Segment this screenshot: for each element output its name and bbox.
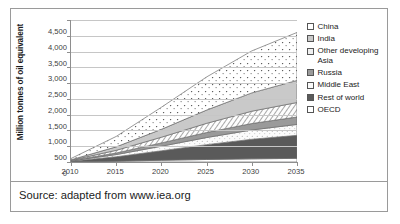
gridline: [71, 115, 297, 116]
y-tick-mark: [67, 99, 71, 100]
legend-item-label: Russia: [318, 68, 342, 78]
legend-swatch-icon: [307, 69, 314, 76]
stacked-area-series: [71, 20, 297, 162]
x-tick-label: 2015: [107, 167, 124, 176]
x-axis-tick-labels: 201020152020202520302035: [70, 167, 296, 179]
gridline: [71, 67, 297, 68]
legend-item[interactable]: OECD: [307, 105, 387, 115]
plot-inner: [71, 20, 297, 162]
gridline: [71, 99, 297, 100]
legend-item[interactable]: China: [307, 22, 387, 32]
y-tick-mark: [67, 83, 71, 84]
gridline: [71, 130, 297, 131]
gridline: [71, 83, 297, 84]
y-tick-label: 500: [39, 153, 67, 162]
legend-item-label: OECD: [318, 105, 341, 115]
legend-item-label: Rest of world: [318, 93, 365, 103]
legend-swatch-icon: [307, 23, 314, 30]
source-caption: Source: adapted from www.iea.org: [19, 189, 191, 201]
y-tick-label: 2,000: [39, 105, 67, 114]
y-tick-label: 4,500: [39, 27, 67, 36]
x-tick-mark: [297, 162, 298, 166]
x-tick-label: 2035: [288, 167, 305, 176]
y-tick-mark: [67, 115, 71, 116]
legend-item-label: China: [318, 22, 339, 32]
gridline: [71, 20, 297, 21]
legend-item-label: India: [318, 34, 335, 44]
legend-item-label: Other developing Asia: [318, 46, 388, 65]
legend-swatch-icon: [307, 35, 314, 42]
y-tick-label: 3,000: [39, 74, 67, 83]
y-tick-label: 1,500: [39, 121, 67, 130]
gridline: [71, 146, 297, 147]
chart-panel: Million tonnes of oil equivalent 05001,0…: [11, 9, 387, 182]
x-tick-label: 2010: [62, 167, 79, 176]
y-axis-tick-labels: 05001,0001,5002,0002,5003,0003,5004,0004…: [39, 20, 67, 162]
x-tick-mark: [161, 162, 162, 166]
legend-swatch-icon: [307, 82, 314, 89]
x-tick-mark: [71, 162, 72, 166]
gridline: [71, 36, 297, 37]
legend-item[interactable]: India: [307, 34, 387, 44]
y-tick-mark: [67, 36, 71, 37]
x-tick-label: 2030: [242, 167, 259, 176]
y-tick-label: 4,000: [39, 42, 67, 51]
legend-item-label: Middle East: [318, 80, 360, 90]
plot-area: [70, 20, 297, 163]
legend-swatch-icon: [307, 48, 314, 55]
figure-frame: Million tonnes of oil equivalent 05001,0…: [10, 8, 388, 212]
x-tick-mark: [252, 162, 253, 166]
y-tick-mark: [67, 20, 71, 21]
legend-swatch-icon: [307, 106, 314, 113]
y-tick-mark: [67, 146, 71, 147]
y-tick-mark: [67, 130, 71, 131]
x-tick-label: 2025: [197, 167, 214, 176]
chart-legend: ChinaIndiaOther developing AsiaRussiaMid…: [307, 22, 387, 117]
y-tick-label: 3,500: [39, 58, 67, 67]
legend-item[interactable]: Russia: [307, 68, 387, 78]
y-tick-mark: [67, 67, 71, 68]
gridline: [71, 52, 297, 53]
x-tick-mark: [207, 162, 208, 166]
y-tick-label: 1,000: [39, 137, 67, 146]
legend-item[interactable]: Other developing Asia: [307, 46, 387, 65]
y-tick-label: 2,500: [39, 90, 67, 99]
legend-swatch-icon: [307, 94, 314, 101]
x-tick-mark: [116, 162, 117, 166]
x-tick-label: 2020: [152, 167, 169, 176]
legend-item[interactable]: Rest of world: [307, 93, 387, 103]
legend-item[interactable]: Middle East: [307, 80, 387, 90]
y-tick-mark: [67, 52, 71, 53]
